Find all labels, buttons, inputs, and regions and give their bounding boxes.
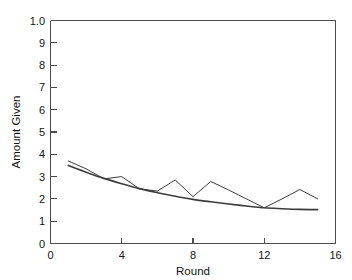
line-chart-canvas: 0 1 2 3 4 5 6 7 8 9 1.0 0 4 8 12 16 Roun… [0,0,352,280]
y-tick-label-7: 7 [39,81,45,93]
x-axis-tick-labels: 0 4 8 12 16 [47,249,341,261]
x-tick-label-12: 12 [258,249,270,261]
y-tick-label-4: 4 [39,148,45,160]
y-tick-label-10: 1.0 [30,15,45,27]
x-tick-label-8: 8 [190,249,196,261]
series-line-observed [68,161,317,208]
plot-frame [51,21,336,244]
x-tick-label-16: 16 [329,249,341,261]
y-tick-label-5: 5 [39,126,45,138]
data-series-layer [68,161,317,210]
chart-figure: 0 1 2 3 4 5 6 7 8 9 1.0 0 4 8 12 16 Roun… [0,0,352,280]
y-axis-title: Amount Given [10,96,22,169]
series-line-fitted [68,165,317,209]
y-axis-ticks [51,21,57,244]
x-tick-label-0: 0 [47,249,53,261]
y-axis-tick-labels: 0 1 2 3 4 5 6 7 8 9 1.0 [30,15,45,250]
x-tick-label-4: 4 [119,249,125,261]
y-tick-label-9: 9 [39,37,45,49]
y-tick-label-0: 0 [39,238,45,250]
y-tick-label-2: 2 [39,193,45,205]
y-tick-label-8: 8 [39,59,45,71]
x-axis-ticks [51,238,336,244]
y-tick-label-6: 6 [39,104,45,116]
y-tick-label-3: 3 [39,171,45,183]
y-tick-label-1: 1 [39,215,45,227]
x-axis-title: Round [176,265,210,277]
